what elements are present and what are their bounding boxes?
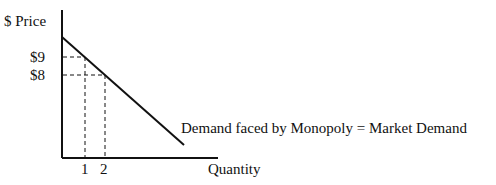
demand-chart: $ Price $9 $8 1 2 Quantity Demand faced … — [0, 0, 496, 185]
price-9-label: $9 — [30, 49, 45, 65]
x-axis-label: Quantity — [208, 161, 261, 177]
y-axis-label: $ Price — [4, 13, 46, 29]
demand-curve-label: Demand faced by Monopoly = Market Demand — [181, 120, 467, 136]
qty-2-label: 2 — [100, 161, 108, 177]
demand-curve — [62, 37, 184, 145]
price-8-label: $8 — [30, 67, 45, 83]
qty-1-label: 1 — [81, 161, 89, 177]
